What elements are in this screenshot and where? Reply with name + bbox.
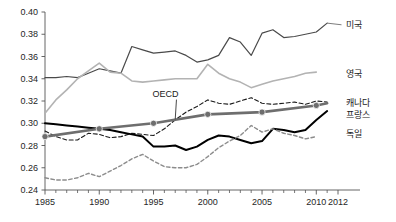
y-tick-label: 0.28 [20,141,38,151]
x-tick-label: 1995 [144,197,164,207]
x-tick-label: 2012 [328,197,348,207]
chart-axes [42,12,361,195]
series-label-독일: 독일 [346,129,362,139]
series-marker-OECD [259,109,265,115]
series-line-영국 [45,63,316,113]
y-tick-label: 0.40 [20,7,38,17]
chart-markers-group [42,102,319,139]
y-tick-label: 0.30 [20,118,38,128]
chart-annotations: OECD [152,89,179,119]
line-chart: 0.240.260.280.300.320.340.360.380.40 198… [0,0,396,222]
annotation-leader [175,100,176,120]
series-marker-OECD [313,102,319,108]
chart-series-group [45,23,327,180]
series-labels-group: 미국영국캐나다프랑스독일 [327,20,370,139]
annotation-label-oecd: OECD [152,89,179,99]
y-tick-label: 0.34 [20,74,38,84]
label-leader-미국 [327,23,341,25]
series-marker-OECD [150,120,156,126]
series-marker-OECD [42,134,48,140]
series-label-영국: 영국 [346,69,362,79]
x-axis-tick-labels: 1985199019952000200520102012 [35,197,348,207]
series-label-캐나다: 캐나다 [346,98,371,108]
chart-container: 0.240.260.280.300.320.340.360.380.40 198… [0,0,396,222]
y-tick-label: 0.38 [20,29,38,39]
x-tick-label: 2005 [252,197,272,207]
y-tick-label: 0.36 [20,52,38,62]
x-tick-label: 2010 [306,197,326,207]
y-tick-label: 0.32 [20,96,38,106]
y-axis-tick-labels: 0.240.260.280.300.320.340.360.380.40 [20,7,38,195]
series-label-미국: 미국 [346,20,362,30]
x-tick-label: 2000 [198,197,218,207]
series-label-프랑스: 프랑스 [346,109,370,120]
series-line-미국 [45,23,327,78]
series-line-독일 [45,125,316,180]
series-line-OECD [45,103,327,136]
x-tick-label: 1985 [35,197,55,207]
y-tick-label: 0.24 [20,185,38,195]
y-tick-label: 0.26 [20,163,38,173]
series-marker-OECD [205,111,211,117]
x-tick-label: 1990 [89,197,109,207]
series-marker-OECD [96,126,102,132]
